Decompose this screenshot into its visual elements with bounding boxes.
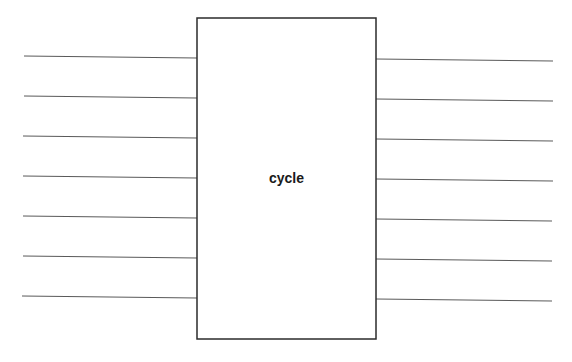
- input-wire-5: [23, 216, 197, 218]
- input-wire-7: [22, 296, 197, 298]
- input-wire-3: [23, 136, 197, 138]
- output-wires: [376, 59, 553, 301]
- input-wire-4: [23, 176, 197, 178]
- output-wire-4: [376, 179, 553, 181]
- output-wire-1: [376, 59, 553, 61]
- input-wire-6: [23, 256, 197, 258]
- input-wire-1: [24, 56, 197, 58]
- output-wire-6: [376, 259, 552, 261]
- input-wire-2: [24, 96, 197, 98]
- output-wire-3: [376, 139, 553, 141]
- output-wire-5: [376, 219, 552, 221]
- block-label: cycle: [197, 170, 376, 186]
- output-wire-7: [376, 299, 552, 301]
- input-wires: [22, 56, 197, 298]
- output-wire-2: [376, 99, 553, 101]
